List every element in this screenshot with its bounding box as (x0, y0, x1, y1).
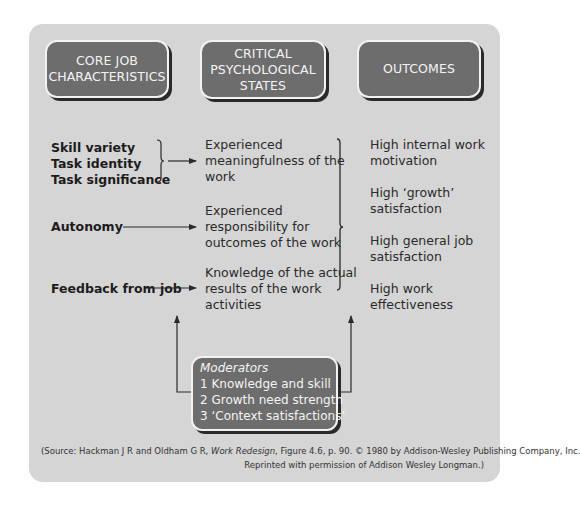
arrow-moderators-to-outcomes (338, 316, 351, 392)
source-citation-line1: (Source: Hackman J R and Oldham G R, Wor… (41, 444, 580, 458)
arrow-moderators-to-states (177, 316, 191, 392)
small-brace-icon (157, 140, 164, 182)
large-brace-icon (337, 139, 343, 290)
moderator-item: 1 Knowledge and skill (200, 376, 336, 392)
moderator-item: 2 Growth need strength (200, 392, 336, 408)
moderator-item: 3 ‘Context satisfactions’ (200, 408, 336, 424)
moderators-title: Moderators (200, 360, 336, 376)
moderators-box: Moderators 1 Knowledge and skill 2 Growt… (191, 356, 338, 431)
source-citation-line2: Reprinted with permission of Addison Wes… (244, 458, 484, 472)
